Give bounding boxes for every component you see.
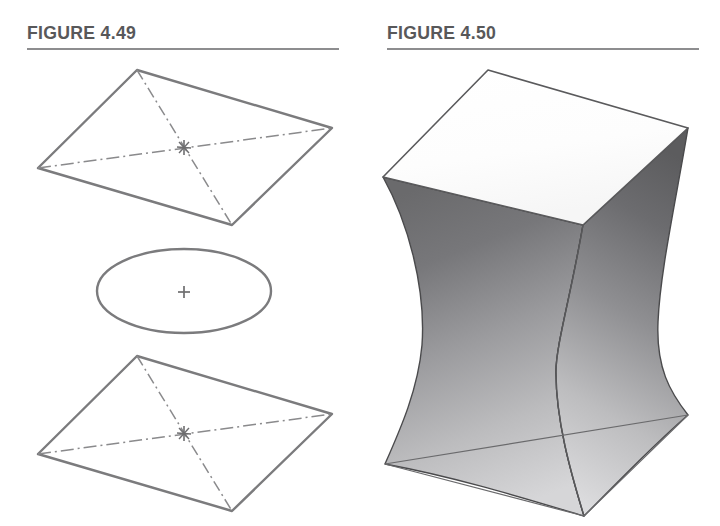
figure-artwork-4-49	[0, 0, 360, 526]
bottom-parallelogram-center-marker	[177, 426, 191, 441]
top-parallelogram	[38, 70, 332, 225]
figure-panel-4-50: FIGURE 4.50	[360, 0, 720, 526]
top-parallelogram-center-marker	[177, 140, 191, 155]
figure-artwork-4-50	[360, 0, 720, 526]
hyperboloid-solid	[383, 70, 688, 516]
left-shaded-panel	[383, 177, 584, 516]
figure-page: FIGURE 4.49	[0, 0, 720, 526]
mid-ellipse	[97, 249, 271, 333]
figure-panel-4-49: FIGURE 4.49	[0, 0, 360, 526]
bottom-parallelogram	[38, 356, 332, 511]
